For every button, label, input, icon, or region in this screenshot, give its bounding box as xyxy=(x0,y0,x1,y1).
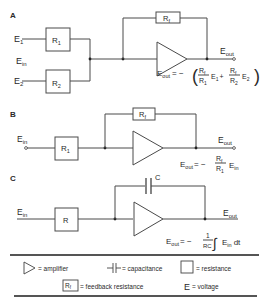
junction-dot xyxy=(195,147,198,150)
svg-text:Eindt: Eindt xyxy=(222,238,241,248)
svg-text:R1: R1 xyxy=(216,165,224,174)
svg-text:∫: ∫ xyxy=(212,235,218,252)
svg-text:Ein: Ein xyxy=(229,161,239,171)
junction-dot xyxy=(89,58,92,61)
input-ein-label: Ein xyxy=(17,207,27,218)
junction-dot xyxy=(206,58,209,61)
panel-b-label: B xyxy=(10,110,16,119)
output-eout-label: Eout xyxy=(223,208,237,219)
svg-text:Eout= −: Eout= − xyxy=(166,237,192,247)
capacitor-c-label: C xyxy=(155,173,161,182)
capacitor-icon xyxy=(107,263,121,273)
output-terminal xyxy=(233,58,236,61)
input-ein-label: Ein xyxy=(17,134,27,145)
resistor-icon xyxy=(181,261,193,273)
svg-text:Rf: Rf xyxy=(199,67,206,76)
svg-text:E1+: E1+ xyxy=(211,73,224,82)
panel-a: A E1 R1 Ein E2 R2 Rf Eout xyxy=(10,11,260,93)
equation-b: Eout= − Rf R1 Ein xyxy=(180,155,239,174)
svg-text:RC: RC xyxy=(203,243,212,249)
equation-a: Eout= − ( Rf R1 E1+ Rf R2 E2 ) xyxy=(157,66,260,86)
output-eout-label: Eout xyxy=(218,135,232,146)
svg-text:R1: R1 xyxy=(199,77,207,86)
op-amp-diagram: A E1 R1 Ein E2 R2 Rf Eout xyxy=(0,0,269,305)
panel-a-label: A xyxy=(10,11,16,20)
svg-text:Eout= −: Eout= − xyxy=(157,69,184,79)
input-group-ein-label: Ein xyxy=(16,56,27,67)
svg-text:R2: R2 xyxy=(230,77,238,86)
svg-text:E2: E2 xyxy=(242,73,250,82)
output-eout-label: Eout xyxy=(220,46,234,57)
svg-text:(: ( xyxy=(192,66,198,86)
amplifier-icon xyxy=(133,131,163,165)
svg-text:1: 1 xyxy=(206,232,210,239)
legend: = amplifier = capacitance = resistance R… xyxy=(24,261,232,292)
legend-resistance-text: = resistance xyxy=(196,265,232,272)
legend-feedback-resistance-text: = feedback resistance xyxy=(80,283,144,290)
panel-c-label: C xyxy=(10,174,16,183)
resistor-r2 xyxy=(46,70,70,93)
panel-b: B Ein R1 Rf Eout Eout= − Rf R1 Ein xyxy=(10,108,239,174)
svg-text:Rf: Rf xyxy=(216,155,223,164)
voltage-icon: E xyxy=(184,282,190,292)
legend-amplifier-text: = amplifier xyxy=(38,265,69,273)
svg-text:): ) xyxy=(254,66,260,86)
amplifier-icon xyxy=(134,202,163,236)
equation-c: Eout= − 1 RC ∫ Eindt xyxy=(166,232,241,252)
amplifier-icon xyxy=(24,262,35,274)
svg-text:Rf: Rf xyxy=(230,67,237,76)
input-terminal xyxy=(25,147,28,150)
panel-c: C Ein R C Eout Eout= − 1 RC ∫ Eindt xyxy=(10,173,241,252)
junction-dot xyxy=(204,218,207,221)
output-terminal xyxy=(233,147,236,150)
legend-voltage-text: = voltage xyxy=(192,283,219,291)
svg-text:Eout= −: Eout= − xyxy=(180,160,206,170)
legend-capacitance-text: = capacitance xyxy=(122,265,163,273)
resistor-r-label: R xyxy=(63,216,69,225)
feedback-capacitor xyxy=(146,178,151,194)
